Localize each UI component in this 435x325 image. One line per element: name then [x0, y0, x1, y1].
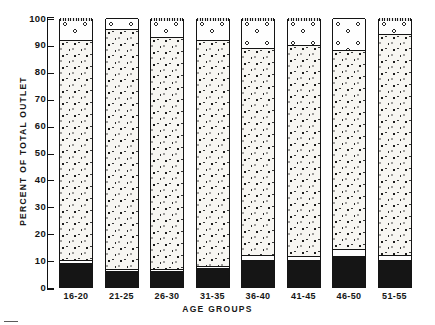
y-tick-label: 60 [16, 120, 46, 131]
bar-top-cap [242, 18, 274, 21]
bar-segment-circles [60, 18, 92, 40]
bar-top-cap [151, 18, 183, 21]
bar-segment-solid [288, 260, 320, 287]
y-tick [47, 207, 54, 208]
bar-segment-stipple [379, 34, 411, 255]
bar-segment-stipple [151, 37, 183, 269]
bar-segment-stipple [242, 48, 274, 255]
stacked-bar[interactable] [59, 19, 93, 288]
y-tick [47, 46, 54, 47]
bar-segment-blank [151, 269, 183, 271]
bar-segment-blank [333, 249, 365, 256]
bar-segment-stipple [106, 29, 138, 269]
y-tick-label: 90 [16, 39, 46, 50]
y-tick-label: 70 [16, 93, 46, 104]
y-tick-label: 40 [16, 174, 46, 185]
stacked-bar[interactable] [378, 19, 412, 288]
x-tick-label: 51-55 [367, 291, 423, 301]
bar-segment-blank [379, 255, 411, 260]
bar-segment-circles [242, 18, 274, 48]
bar-segment-solid [242, 260, 274, 287]
y-tick-label: 80 [16, 66, 46, 77]
stacked-bar[interactable] [150, 19, 184, 288]
bar-segment-circles [197, 18, 229, 40]
y-tick [47, 288, 54, 289]
bar-segment-blank [288, 256, 320, 260]
bar-segment-solid [60, 263, 92, 287]
bar-segment-stipple [333, 50, 365, 249]
y-tick [47, 154, 54, 155]
y-tick [47, 127, 54, 128]
chart-figure: PERCENT OF TOTAL OUTLET 0102030405060708… [0, 0, 435, 325]
plot-area [56, 19, 426, 288]
bar-segment-stipple [197, 40, 229, 266]
y-tick [47, 19, 54, 20]
y-tick [47, 73, 54, 74]
bar-segment-blank [60, 260, 92, 263]
caption-rule [4, 321, 18, 322]
bar-top-cap [197, 18, 229, 21]
y-tick-label: 0 [16, 282, 46, 293]
y-tick-label: 20 [16, 228, 46, 239]
stacked-bar[interactable] [287, 19, 321, 288]
bar-segment-stipple [288, 45, 320, 256]
bar-segment-solid [333, 256, 365, 287]
bar-segment-circles [288, 18, 320, 45]
bar-segment-blank [242, 255, 274, 260]
bar-top-cap [379, 18, 411, 21]
y-tick [47, 100, 54, 101]
bar-segment-solid [197, 268, 229, 287]
y-tick [47, 261, 54, 262]
bar-top-cap [60, 18, 92, 21]
bar-segment-solid [106, 271, 138, 287]
bar-segment-circles [333, 18, 365, 50]
bar-segment-blank [106, 269, 138, 271]
figure-caption [4, 318, 21, 325]
bar-segment-blank [197, 266, 229, 268]
y-tick [47, 234, 54, 235]
y-tick-label: 100 [16, 13, 46, 24]
bar-top-cap [288, 18, 320, 21]
stacked-bar[interactable] [241, 19, 275, 288]
bar-segment-circles [106, 18, 138, 29]
y-tick [47, 180, 54, 181]
x-axis-title: AGE GROUPS [0, 304, 435, 314]
y-tick-label: 50 [16, 147, 46, 158]
stacked-bar[interactable] [332, 19, 366, 288]
bar-segment-solid [151, 271, 183, 287]
bar-segment-solid [379, 260, 411, 287]
y-tick-label: 30 [16, 201, 46, 212]
bar-segment-stipple [60, 40, 92, 261]
stacked-bar[interactable] [105, 19, 139, 288]
y-tick-label: 10 [16, 255, 46, 266]
stacked-bar[interactable] [196, 19, 230, 288]
